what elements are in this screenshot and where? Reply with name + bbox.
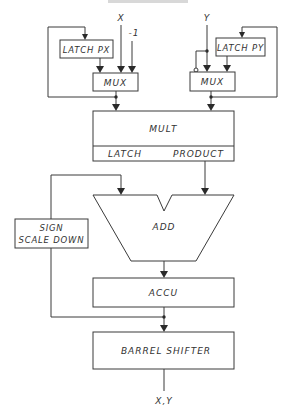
latch-px-label: LATCH PX [63, 45, 111, 55]
arrow-product-to-add [201, 188, 209, 195]
output-xy-label: X,Y [154, 396, 173, 406]
junction-dot [162, 315, 165, 318]
mult-label: MULT [149, 124, 178, 134]
arrow-mux-right-to-mult [207, 104, 215, 111]
datapath-diagram: LATCH PX X -1 MUX Y LATCH PY MUX MULT LA… [0, 0, 293, 417]
mux-right-label: MUX [201, 77, 225, 87]
arrow-accu-to-shifter [160, 325, 168, 332]
arrow-y-to-mux [203, 65, 211, 72]
cropped-header-text [108, 0, 188, 3]
arrow-mux-left-to-mult [112, 104, 120, 111]
latch-py-label: LATCH PY [217, 43, 264, 53]
mux-left-label: MUX [104, 78, 128, 88]
input-y-label: Y [204, 13, 211, 23]
input-x-label: X [116, 13, 124, 23]
junction-dot [209, 95, 212, 98]
arrow-latch-py-to-mux [223, 65, 231, 72]
barrel-shifter-label: BARREL SHIFTER [121, 346, 211, 356]
inverter-bubble [194, 68, 198, 72]
accu-label: ACCU [148, 288, 178, 298]
arrow-feedback-to-add [117, 188, 125, 195]
add-label: ADD [151, 222, 175, 232]
arrow-latch-px-to-mux [96, 66, 104, 73]
product-label: PRODUCT [173, 149, 225, 159]
input-minus-one-label: -1 [129, 28, 140, 38]
latch-label: LATCH [108, 149, 142, 159]
arrow-minus-one-to-mux [128, 66, 136, 73]
sign-label: SIGN [39, 223, 63, 233]
arrow-into-latch-px [82, 34, 88, 40]
arrow-into-latch-py [239, 32, 245, 38]
scale-down-label: SCALE DOWN [19, 235, 85, 245]
arrow-add-to-accu [160, 271, 168, 278]
junction-dot [114, 95, 117, 98]
arrow-x-to-mux [117, 66, 125, 73]
